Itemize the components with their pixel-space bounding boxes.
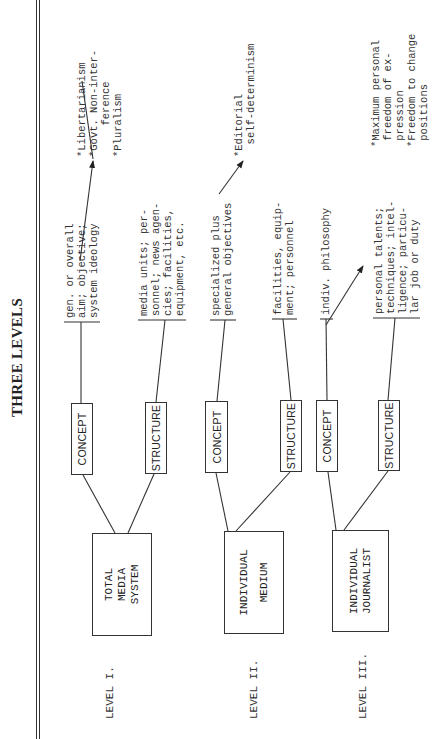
outcome-level-1: *Libertarianism *Govt. Non-inter- ferenc… [76,50,124,157]
diagram-page: THREE LEVELS [0,0,442,739]
concept-box-level-2: CONCEPT [205,401,228,473]
entity-line: TOTAL [103,565,116,605]
structure-description-level-3: personal talents; techniques; intel- lig… [373,201,421,314]
entity-line: INDIVIDUAL [348,548,361,614]
structure-description-level-1: media units; per- sonnel; news agen- cie… [138,203,186,316]
concept-description-level-1: gen. or overall aim; objective; system i… [64,223,100,318]
level-label-3: LEVEL III. [357,653,369,719]
entity-line: MEDIUM [254,550,274,616]
structure-description-level-2: facilities, equip- ment; personnel [272,202,296,315]
structure-box-level-2: STRUCTURE [280,400,302,472]
concept-box-level-1: CONCEPT [71,403,93,475]
entity-line: SYSTEM [129,565,142,605]
entity-line: JOURNALIST [361,548,374,614]
concept-box-level-3: CONCEPT [316,400,338,472]
outcome-level-3: *Maximum personal freedom of ex- pressio… [370,34,430,147]
entity-box-individual-journalist: INDIVIDUAL JOURNALIST [332,530,389,632]
structure-box-level-1: STRUCTURE [145,402,167,474]
outcome-level-2: *Editorial self-determinism [233,44,257,157]
structure-box-level-3: STRUCTURE [378,400,400,471]
entity-line: MEDIA [116,565,129,605]
entity-line: INDIVIDUAL [234,550,254,616]
entity-box-individual-medium: INDIVIDUAL MEDIUM [224,531,284,634]
concept-description-level-2: specialized plus general objectives [210,203,234,316]
concept-description-level-3: indiv. philosophy [320,208,332,315]
level-label-2: LEVEL II. [248,660,260,719]
entity-box-total-media-system: TOTAL MEDIA SYSTEM [92,533,152,636]
level-label-1: LEVEL I. [104,666,116,719]
